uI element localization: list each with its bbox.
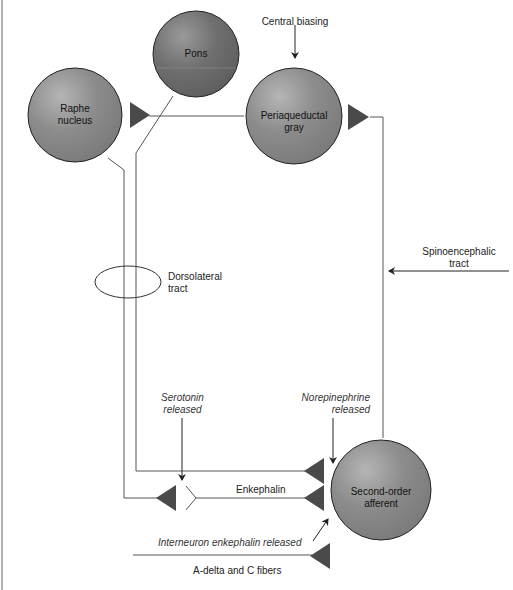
interneuron-terminal <box>186 486 196 510</box>
second-order-afferent-label: Second-orderafferent <box>336 486 426 510</box>
dorsolateral-tract-ellipse <box>95 266 161 298</box>
central-biasing-label: Central biasing <box>255 16 335 28</box>
raphe-terminal-synapse <box>156 485 176 511</box>
dorsolateral-tract-label: Dorsolateraltract <box>168 271 222 295</box>
interneuron-enkephalin-label: Interneuron enkephalin released <box>158 537 301 549</box>
raphe-descending-path <box>108 158 160 498</box>
interneuron-arrow <box>313 519 328 541</box>
pons-label: Pons <box>166 48 226 60</box>
periaqueductal-gray-label: Periaqueductalgray <box>249 110 339 134</box>
enkephalin-label: Enkephalin <box>236 484 285 496</box>
raphe-synapse <box>130 102 150 128</box>
pag-synapse <box>348 104 369 130</box>
pag-descending-path <box>370 117 383 438</box>
norepinephrine-released-label: Norepinephrinereleased <box>290 392 370 416</box>
a-delta-c-fibers-label: A-delta and C fibers <box>193 565 281 577</box>
pons-synapse <box>304 458 324 484</box>
pain-modulation-diagram <box>0 0 513 590</box>
serotonin-released-label: Serotoninreleased <box>155 392 210 416</box>
enkephalin-synapse <box>304 485 324 511</box>
spinoencephalic-tract-label: Spinoencephalictract <box>414 246 504 270</box>
raphe-nucleus-label: Raphenucleus <box>40 103 110 127</box>
fibers-synapse <box>310 543 330 569</box>
